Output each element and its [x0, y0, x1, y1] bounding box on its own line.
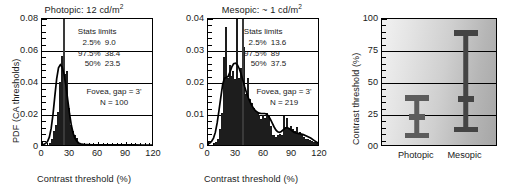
panel-mesopic-x-axis-label: Contrast threshold (%): [166, 174, 336, 184]
y-tick-label: 25: [338, 109, 378, 119]
stats-row: 2.5% 13.6: [240, 38, 286, 49]
panel-mesopic-title-text: Mesopic: ~ 1 cd/m: [222, 5, 299, 15]
y-minor-tick: [382, 89, 386, 90]
y-minor-tick: [382, 64, 386, 65]
y-major-tick: [382, 115, 387, 116]
errorbar-median-cap: [458, 96, 474, 102]
stats-percentile: 50%: [240, 59, 267, 70]
errorbar-lower-cap: [405, 133, 429, 139]
panel-mesopic-title: Mesopic: ~ 1 cd/m2: [206, 3, 318, 15]
stats-percentile: 2.5%: [74, 38, 101, 49]
panel-photopic-title-text: Photopic: 12 cd/m: [44, 5, 119, 15]
panel-summary: Contrast threshold (%) 00255075100 Photo…: [338, 0, 510, 187]
y-tick-label: 50: [338, 77, 378, 87]
stats-value: 37.5: [267, 59, 287, 70]
y-tick-label: 100: [338, 13, 378, 23]
y-minor-tick: [382, 102, 386, 103]
stats-row: 2.5% 9.0: [74, 38, 120, 49]
stats-row: 97.5% 38.4: [74, 49, 120, 60]
y-tick-label: 00: [338, 141, 378, 151]
y-tick-label: 0.06: [0, 45, 38, 55]
errorbar-mesopic: [451, 19, 481, 146]
x-tick-label: 0: [204, 148, 209, 158]
y-minor-tick: [382, 96, 386, 97]
panel-photopic-title-exponent: 2: [120, 3, 124, 10]
y-tick-label: 0.04: [164, 13, 204, 23]
panel-photopic-stats-block: Stats limits 2.5% 9.0 97.5% 38.4 50% 23.…: [74, 27, 120, 70]
errorbar-photopic: [402, 19, 432, 146]
y-minor-tick: [382, 121, 386, 122]
y-minor-tick: [382, 141, 386, 142]
y-tick-label: 0: [164, 141, 204, 151]
errorbar-upper-cap: [454, 30, 478, 36]
y-tick-label: 0: [0, 141, 38, 151]
panel-photopic-x-axis-label: Contrast threshold (%): [0, 174, 168, 184]
y-tick-label: 0.03: [164, 45, 204, 55]
y-major-tick: [382, 19, 387, 20]
y-tick-label: 0.02: [164, 77, 204, 87]
stats-row: 97.5% 89: [240, 49, 286, 60]
note-condition: Fovea, gap = 3': [72, 86, 156, 97]
y-minor-tick: [382, 57, 386, 58]
x-tick-label: 120: [145, 148, 160, 158]
panel-photopic: Photopic: 12 cd/m2 PDF (CA thresholds) 0…: [0, 0, 168, 187]
category-label-mesopic: Mesopic: [447, 150, 481, 160]
stats-row: 50% 37.5: [240, 59, 286, 70]
y-tick-label: 75: [338, 45, 378, 55]
panel-summary-plot-area: [381, 18, 497, 146]
x-tick-label: 30: [64, 148, 74, 158]
stats-percentile: 50%: [74, 59, 101, 70]
y-minor-tick: [382, 70, 386, 71]
y-minor-tick: [382, 128, 386, 129]
panel-mesopic-title-exponent: 2: [298, 3, 302, 10]
y-tick-label: 0.02: [0, 109, 38, 119]
y-minor-tick: [382, 77, 386, 78]
panel-photopic-y-axis-label: PDF (CA thresholds): [11, 59, 21, 143]
x-tick-label: 120: [311, 148, 326, 158]
panel-mesopic-stats-block: Stats limits 2.5% 13.6 97.5% 89 50% 37.5: [240, 27, 286, 70]
y-minor-tick: [382, 134, 386, 135]
errorbar-median-cap: [409, 114, 425, 120]
y-minor-tick: [382, 45, 386, 46]
x-tick-label: 60: [92, 148, 102, 158]
stats-percentile: 2.5%: [240, 38, 267, 49]
panel-mesopic-note-block: Fovea, gap = 3' N = 219: [238, 86, 330, 108]
stats-value: 9.0: [101, 38, 121, 49]
y-tick-label: 0.04: [0, 77, 38, 87]
stats-percentile: 97.5%: [74, 49, 101, 60]
y-major-tick: [382, 83, 387, 84]
errorbar-lower-cap: [454, 127, 478, 133]
stats-header: Stats limits: [240, 27, 286, 38]
panel-summary-y-axis-label: Contrast threshold (%): [351, 53, 361, 145]
y-major-tick: [382, 51, 387, 52]
x-tick-label: 60: [258, 148, 268, 158]
panel-mesopic: Mesopic: ~ 1 cd/m2 00.010.020.030.04 030…: [166, 0, 336, 187]
figure-contrast-threshold-distributions: Photopic: 12 cd/m2 PDF (CA thresholds) 0…: [0, 0, 510, 187]
category-label-photopic: Photopic: [398, 150, 434, 160]
stats-table: 2.5% 9.0 97.5% 38.4 50% 23.5: [74, 38, 120, 70]
y-minor-tick: [382, 32, 386, 33]
note-sample-size: N = 100: [72, 97, 156, 108]
y-minor-tick: [382, 38, 386, 39]
errorbar-upper-cap: [405, 95, 429, 101]
histogram-bar: [318, 143, 319, 145]
stats-header: Stats limits: [74, 27, 120, 38]
panel-photopic-note-block: Fovea, gap = 3' N = 100: [72, 86, 156, 108]
y-tick-label: 0.01: [164, 109, 204, 119]
y-minor-tick: [382, 109, 386, 110]
note-sample-size: N = 219: [238, 97, 330, 108]
stats-value: 38.4: [101, 49, 121, 60]
y-minor-tick: [382, 25, 386, 26]
stats-value: 23.5: [101, 59, 121, 70]
x-tick-label: 90: [286, 148, 296, 158]
stats-value: 89: [267, 49, 287, 60]
note-condition: Fovea, gap = 3': [238, 86, 330, 97]
stats-percentile: 97.5%: [240, 49, 267, 60]
y-tick-label: 0.08: [0, 13, 38, 23]
stats-row: 50% 23.5: [74, 59, 120, 70]
errorbar-stem: [463, 33, 469, 130]
stats-table: 2.5% 13.6 97.5% 89 50% 37.5: [240, 38, 286, 70]
x-tick-label: 0: [38, 148, 43, 158]
x-tick-label: 90: [120, 148, 130, 158]
x-tick-label: 30: [230, 148, 240, 158]
